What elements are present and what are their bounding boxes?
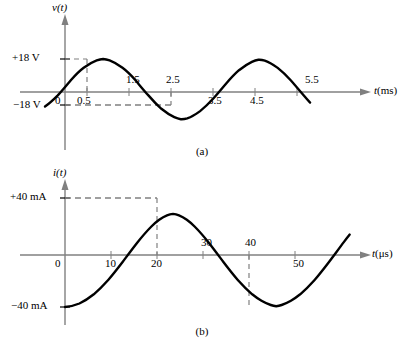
x-tick-label-1p5-a: 1.5	[126, 74, 140, 85]
y-axis-arrow-b	[62, 179, 69, 190]
chart-b-graphic	[0, 160, 404, 349]
x-axis-label-b: t(μs)	[372, 248, 393, 259]
neg-amplitude-label-a: −18 V	[13, 99, 41, 110]
x-axis-label-unit-a: (ms)	[377, 84, 397, 96]
x-tick-label-30-b: 30	[201, 237, 212, 248]
panel-caption-a: (a)	[0, 146, 404, 157]
x-tick-label-0p5-a: 0.5	[77, 95, 91, 106]
panel-caption-b: (b)	[0, 326, 404, 337]
x-tick-label-5p5-a: 5.5	[305, 74, 319, 85]
x-axis-arrow-a	[360, 89, 371, 96]
x-tick-label-0-a: 0	[55, 95, 61, 106]
x-tick-label-10-b: 10	[105, 258, 116, 269]
x-tick-label-40-b: 40	[245, 237, 256, 248]
y-axis-label-a: v(t)	[52, 2, 67, 13]
x-tick-label-50-b: 50	[293, 258, 304, 269]
x-tick-label-4p5-a: 4.5	[250, 95, 264, 106]
chart-panel-b: i(t) +40 mA −40 mA 0 10 20 30 40 50 t(μs…	[0, 160, 404, 349]
waveform-curve-a	[45, 59, 310, 119]
x-tick-label-2p5-a: 2.5	[166, 74, 180, 85]
chart-panel-a: v(t) +18 V −18 V 0 0.5 1.5 2.5 3.5 4.5 5…	[0, 0, 404, 175]
pos-amplitude-label-a: +18 V	[12, 52, 40, 63]
x-tick-label-20-b: 20	[151, 258, 162, 269]
neg-amplitude-label-b: −40 mA	[11, 300, 47, 311]
y-axis-label-b: i(t)	[53, 167, 66, 178]
x-axis-label-unit-b: (μs)	[375, 247, 393, 259]
x-tick-label-0-b: 0	[55, 258, 61, 269]
figure-canvas: v(t) +18 V −18 V 0 0.5 1.5 2.5 3.5 4.5 5…	[0, 0, 404, 349]
x-tick-label-3p5-a: 3.5	[208, 95, 222, 106]
x-axis-arrow-b	[360, 252, 371, 259]
x-axis-label-a: t(ms)	[374, 85, 397, 96]
pos-amplitude-label-b: +40 mA	[10, 191, 46, 202]
y-axis-arrow-a	[62, 14, 69, 25]
